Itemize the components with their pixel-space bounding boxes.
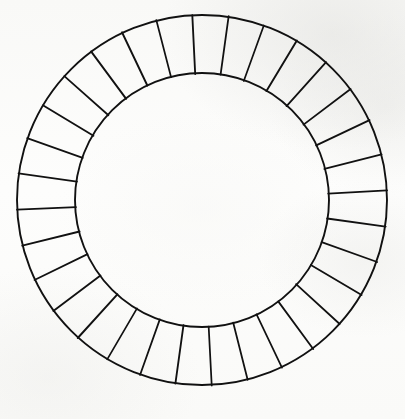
segmented-ring-diagram: Segmented Ring Diagram xyxy=(0,0,405,419)
figure-canvas: Segmented Ring Diagram xyxy=(0,0,405,419)
ring-segments-group xyxy=(17,15,387,386)
inner-circle xyxy=(75,73,329,327)
